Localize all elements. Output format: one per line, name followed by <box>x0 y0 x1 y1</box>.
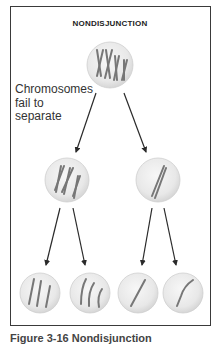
parent-cell <box>87 42 133 88</box>
gamete-cell-4 <box>163 273 203 313</box>
arrow-parent-to-right <box>124 93 146 152</box>
gamete-cell-2 <box>70 273 110 313</box>
arrow-left-to-gamete-2 <box>73 208 85 265</box>
figure-caption: Figure 3-16 Nondisjunction <box>10 332 152 344</box>
arrow-parent-to-left <box>76 93 96 152</box>
daughter-cell-left <box>45 158 89 202</box>
arrow-left-to-gamete-1 <box>46 208 60 265</box>
arrow-right-to-gamete-3 <box>142 208 152 265</box>
gamete-cell-3 <box>118 273 158 313</box>
gamete-cell-1 <box>20 273 60 313</box>
arrow-right-to-gamete-4 <box>164 208 176 265</box>
daughter-cell-right <box>136 158 180 202</box>
